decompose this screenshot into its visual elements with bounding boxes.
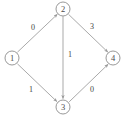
edge-weight-2-3: 1	[68, 50, 72, 59]
edge-weight-1-3: 1	[29, 85, 33, 94]
edge-weight-1-2: 0	[31, 23, 35, 32]
edge-weight-3-4: 0	[90, 85, 94, 94]
node-2: 2	[56, 2, 70, 16]
graph-canvas: 0 3 1 1 0 1 2 3 4	[0, 0, 124, 122]
directed-graph-figure: 0 3 1 1 0 1 2 3 4	[0, 0, 124, 122]
edge-3-to-4	[69, 64, 108, 102]
node-3: 3	[56, 100, 70, 114]
node-1: 1	[5, 51, 19, 65]
node-2-label: 2	[61, 4, 65, 14]
nodes-group: 1 2 3 4	[5, 2, 120, 114]
edge-2-to-4	[69, 14, 108, 52]
node-4: 4	[106, 51, 120, 65]
edge-1-to-2	[17, 14, 57, 52]
node-1-label: 1	[10, 53, 14, 63]
edge-weight-2-4: 3	[90, 22, 94, 31]
edge-1-to-3	[17, 64, 57, 102]
node-3-label: 3	[61, 102, 65, 112]
